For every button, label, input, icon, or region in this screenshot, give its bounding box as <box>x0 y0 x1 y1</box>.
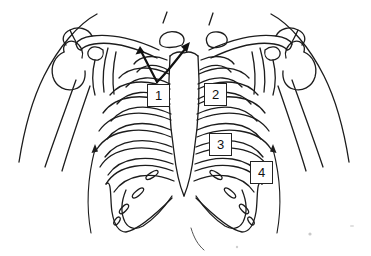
clavicle-bone <box>76 35 159 50</box>
humerus-bone <box>62 86 90 171</box>
humerus-bone <box>45 80 76 167</box>
clavicle-medial-ends <box>160 32 227 48</box>
label-number: 2 <box>212 88 219 101</box>
pointer-arrows <box>136 42 191 82</box>
label-number: 3 <box>217 138 224 151</box>
humeral-head <box>52 52 85 90</box>
cartilage-slots <box>113 169 160 226</box>
label-number: 1 <box>155 89 162 102</box>
left-half-skeleton <box>19 14 174 233</box>
thorax-line-drawing <box>0 0 371 256</box>
label-box-1: 1 <box>147 84 170 107</box>
arrow-to-right-sc-joint <box>157 48 186 82</box>
costal-margin <box>122 190 172 228</box>
label-box-2: 2 <box>204 83 227 106</box>
scapula-line <box>93 60 95 95</box>
scapula-line <box>103 48 108 92</box>
label-box-3: 3 <box>209 133 232 156</box>
arm-outline <box>19 14 97 162</box>
faint-marks <box>191 225 354 250</box>
coracoid <box>88 47 103 60</box>
sternum <box>169 52 199 196</box>
axillary-line <box>88 149 95 233</box>
label-box-4: 4 <box>250 161 273 184</box>
anatomy-diagram: 1 2 3 4 <box>0 0 371 256</box>
neck-lines <box>163 12 213 25</box>
scapula-line <box>113 52 116 94</box>
clavicle-bone <box>81 43 157 58</box>
label-number: 4 <box>258 166 265 179</box>
